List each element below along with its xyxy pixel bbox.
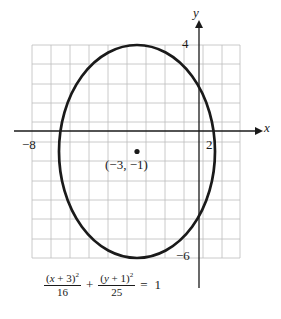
- exponent: 2: [130, 271, 134, 279]
- plus-operator: +: [84, 277, 95, 293]
- equation-term-2: (y + 1)2 25: [98, 272, 135, 299]
- term-2-offset: + 1: [109, 272, 126, 284]
- center-coordinate-label: (−3, −1): [105, 158, 148, 171]
- equation-term-1-numerator: (x + 3)2: [44, 272, 81, 284]
- equals-operator: =: [138, 277, 149, 293]
- y-axis: [195, 20, 203, 288]
- equation-rhs: 1: [153, 277, 164, 293]
- x-axis-label: x: [264, 121, 270, 134]
- equation-term-2-denominator: 25: [111, 287, 122, 299]
- ellipse-equation: (x + 3)2 16 + (y + 1)2 25 = 1: [44, 272, 163, 299]
- y-tick-label-neg6: −6: [176, 249, 190, 262]
- exponent: 2: [75, 271, 79, 279]
- term-1-offset: + 3: [55, 272, 72, 284]
- equation-term-1-denominator: 16: [57, 287, 68, 299]
- y-tick-label-4: 4: [182, 37, 189, 50]
- center-point-marker: [134, 149, 139, 154]
- x-tick-label-neg8: −8: [22, 138, 36, 151]
- x-axis-arrowhead: [255, 127, 263, 135]
- x-tick-label-2: 2: [206, 138, 213, 151]
- equation-term-1: (x + 3)2 16: [44, 272, 81, 299]
- equation-term-2-numerator: (y + 1)2: [98, 272, 135, 284]
- y-axis-label: y: [193, 6, 199, 19]
- y-axis-arrowhead: [195, 20, 203, 28]
